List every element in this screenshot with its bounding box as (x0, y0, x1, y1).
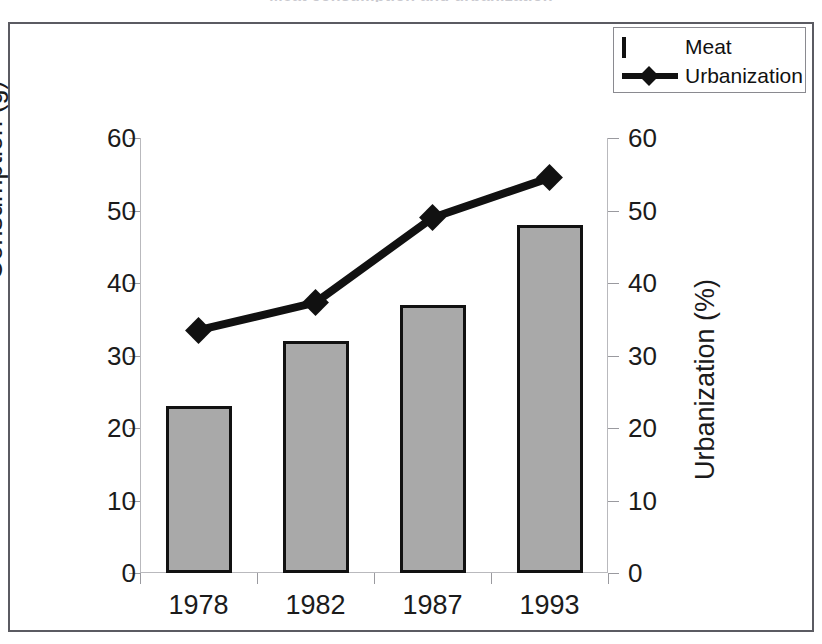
y-tick-label-left: 10 (107, 488, 136, 514)
y-axis-right-title: Urbanization (%) (690, 279, 721, 480)
y-tick-right (608, 573, 619, 574)
legend-label-urbanization: Urbanization (685, 65, 803, 86)
y-tick-right (608, 138, 619, 139)
y-tick-label-left: 20 (107, 415, 136, 441)
x-axis-label: 1993 (491, 590, 608, 620)
y-tick-label-right: 0 (628, 560, 642, 586)
y-tick-label-left: 30 (107, 343, 136, 369)
y-tick-label-right: 20 (628, 415, 657, 441)
legend-item-urbanization: Urbanization (622, 61, 799, 90)
x-axis-label: 1982 (257, 590, 374, 620)
y-tick-label-right: 40 (628, 270, 657, 296)
y-tick-right (608, 501, 619, 502)
x-axis-label: 1987 (374, 590, 491, 620)
y-tick-right (608, 211, 619, 212)
y-tick-label-right: 10 (628, 488, 657, 514)
line-series-urbanization (140, 138, 608, 573)
x-tick (257, 573, 258, 584)
y-tick-right (608, 283, 619, 284)
legend-label-meat: Meat (685, 36, 732, 57)
x-tick (608, 573, 609, 584)
y-tick-right (608, 428, 619, 429)
y-tick-label-left: 0 (122, 560, 136, 586)
legend-swatch-bar-icon (622, 39, 678, 55)
legend-swatch-line-diamond-icon (622, 68, 678, 84)
y-tick-label-right: 60 (628, 125, 657, 151)
x-axis-label: 1978 (140, 590, 257, 620)
y-tick-label-right: 50 (628, 198, 657, 224)
legend-item-meat: Meat (622, 32, 799, 61)
x-tick (374, 573, 375, 584)
chart-title: Meat consumption and urbanization (0, 0, 822, 2)
x-tick (491, 573, 492, 584)
plot-area: 0102030405060 0102030405060 197819821987… (140, 138, 608, 573)
y-tick-label-left: 50 (107, 198, 136, 224)
y-tick-label-left: 60 (107, 125, 136, 151)
y-tick-label-right: 30 (628, 343, 657, 369)
x-tick (140, 573, 141, 584)
chart-legend: Meat Urbanization (613, 27, 806, 93)
y-axis-left-title: Consumption (g) (0, 80, 9, 280)
y-tick-right (608, 356, 619, 357)
y-tick-label-left: 40 (107, 270, 136, 296)
